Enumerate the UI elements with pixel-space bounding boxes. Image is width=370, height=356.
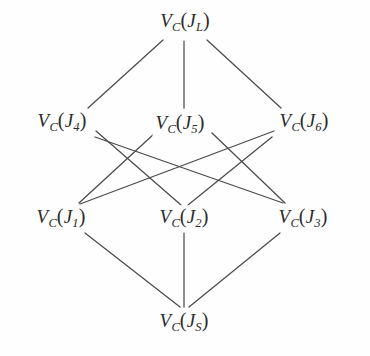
- node-close-paren: ): [198, 111, 205, 133]
- node-base-symbol: V: [279, 206, 291, 227]
- node-arg-symbol: J: [187, 10, 196, 31]
- node-close-paren: ): [321, 205, 328, 227]
- edge-J3-JS: [189, 233, 280, 307]
- node-base-symbol: V: [37, 206, 49, 227]
- node-close-paren: ): [79, 205, 86, 227]
- node-base-symbol: V: [38, 110, 50, 131]
- node-arg-symbol: J: [65, 110, 74, 131]
- edge-J5-J3: [212, 133, 285, 203]
- edge-J4-J3: [95, 137, 283, 203]
- edge-JL-J4: [88, 40, 163, 108]
- node-arg-subscript: L: [196, 20, 203, 34]
- node-arg-symbol: J: [187, 310, 196, 331]
- node-J4: VC(J4): [35, 109, 90, 135]
- edge-J1-JS: [85, 233, 180, 307]
- node-arg-symbol: J: [187, 206, 196, 227]
- lattice-diagram-figure: VC(JL) VC(J4) VC(J5) VC(J6) VC(J1) VC(J2…: [0, 0, 370, 356]
- node-base-symbol: V: [156, 112, 168, 133]
- node-base-symbol: V: [160, 206, 172, 227]
- node-JS: VC(JS): [157, 309, 212, 335]
- node-J6: VC(J6): [277, 109, 332, 135]
- edge-J5-J1: [79, 133, 155, 203]
- edge-JL-J6: [207, 40, 281, 108]
- node-base-symbol: V: [160, 310, 172, 331]
- node-J1: VC(J1): [34, 205, 89, 231]
- node-close-paren: ): [203, 9, 210, 31]
- node-J5: VC(J5): [153, 111, 208, 137]
- node-base-symbol: V: [280, 110, 292, 131]
- node-arg-symbol: J: [306, 206, 315, 227]
- node-JL: VC(JL): [157, 9, 213, 35]
- node-close-paren: ): [202, 309, 209, 331]
- node-arg-symbol: J: [183, 112, 192, 133]
- node-J2: VC(J2): [157, 205, 212, 231]
- node-arg-symbol: J: [307, 110, 316, 131]
- edge-layer: [0, 0, 370, 356]
- node-close-paren: ): [202, 205, 209, 227]
- node-base-symbol: V: [160, 10, 172, 31]
- node-close-paren: ): [80, 109, 87, 131]
- node-arg-symbol: J: [64, 206, 73, 227]
- node-J3: VC(J3): [276, 205, 331, 231]
- node-close-paren: ): [322, 109, 329, 131]
